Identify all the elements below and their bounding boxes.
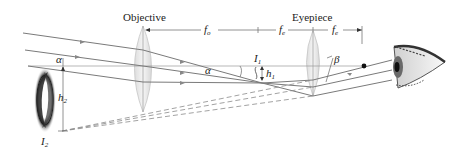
h1-label: h1 bbox=[266, 67, 275, 81]
alpha-mid-label: α bbox=[205, 64, 211, 76]
focal-length-dimension-lines bbox=[145, 26, 362, 44]
intermediate-rays bbox=[143, 50, 313, 96]
f-e-label-1: fe bbox=[279, 23, 285, 37]
beta-leader bbox=[326, 56, 333, 82]
telescope-ray-diagram: Objective Eyepiece fo fe fe α α β I1 h1 … bbox=[0, 0, 452, 164]
h2-label: h2 bbox=[58, 91, 68, 105]
I1-label: I1 bbox=[253, 52, 261, 66]
alpha-left-label: α bbox=[56, 53, 62, 65]
alpha-mid-arc bbox=[240, 66, 242, 77]
eyepiece-label: Eyepiece bbox=[292, 11, 332, 23]
virtual-image-rays bbox=[62, 80, 313, 131]
exit-rays bbox=[313, 60, 392, 96]
f-e-label-2: fe bbox=[332, 23, 338, 37]
beta-label: β bbox=[333, 53, 340, 65]
eye-icon bbox=[393, 46, 445, 88]
h1-dimension bbox=[255, 66, 264, 81]
objective-label: Objective bbox=[123, 11, 166, 23]
objective-lens bbox=[135, 26, 152, 112]
focal-point-dot bbox=[362, 64, 367, 69]
I2-label: I2 bbox=[40, 135, 49, 149]
f-o-label: fo bbox=[204, 23, 211, 37]
galaxy-image bbox=[34, 67, 56, 133]
